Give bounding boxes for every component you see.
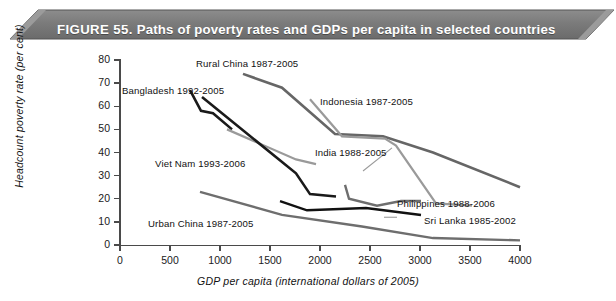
figure-root: FIGURE 55. Paths of poverty rates and GD… — [0, 0, 616, 301]
chart-series-layer — [0, 0, 616, 301]
series-label-rural-china: Rural China 1987-2005 — [196, 58, 298, 69]
leader-line-group — [363, 148, 397, 217]
series-label-indonesia: Indonesia 1987-2005 — [320, 96, 413, 107]
series-label-viet-nam: Viet Nam 1993-2006 — [155, 158, 246, 169]
series-label-philippines: Philippines 1988-2006 — [397, 198, 495, 209]
series-label-urban-china: Urban China 1987-2005 — [148, 218, 254, 229]
series-line-rural — [243, 74, 520, 187]
series-label-india: India 1988-2005 — [315, 147, 387, 158]
series-label-bangladesh: Bangladesh 1992-2005 — [122, 85, 224, 96]
series-label-sri-lanka: Sri Lanka 1985-2002 — [424, 215, 516, 226]
